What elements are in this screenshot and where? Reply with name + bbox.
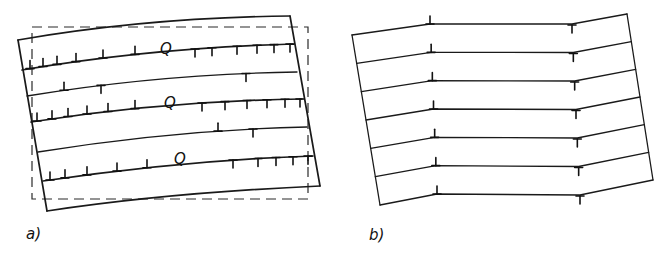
negative-edge-dislocation <box>221 102 229 110</box>
negative-edge-dislocation <box>253 45 261 53</box>
negative-edge-dislocation <box>272 157 280 165</box>
negative-edge-dislocation <box>198 103 206 111</box>
figure-canvas: Q Q Q a) b) <box>0 0 670 259</box>
panel-a-label: a) <box>26 225 41 243</box>
layer-line <box>22 44 293 70</box>
negative-edge-dislocation <box>254 158 262 166</box>
negative-edge-dislocation <box>263 100 271 108</box>
positive-edge-dislocation <box>131 46 139 54</box>
positive-edge-dislocation <box>113 163 121 171</box>
negative-edge-dislocation <box>575 168 583 176</box>
negative-edge-dislocation <box>304 156 312 164</box>
positive-edge-dislocation <box>60 82 68 90</box>
negative-edge-dislocation <box>569 54 577 62</box>
positive-edge-dislocation <box>426 16 434 24</box>
positive-edge-dislocation <box>131 101 139 109</box>
q-label-2: Q <box>164 94 176 112</box>
negative-edge-dislocation <box>208 48 216 56</box>
negative-edge-dislocation <box>249 129 257 137</box>
panel-b: b) <box>352 14 653 244</box>
positive-edge-dislocation <box>431 129 439 137</box>
q-label-3: Q <box>174 150 186 168</box>
negative-edge-dislocation <box>572 111 580 119</box>
negative-edge-dislocation <box>571 82 579 90</box>
positive-edge-dislocation <box>104 104 112 112</box>
negative-edge-dislocation <box>242 73 250 81</box>
negative-edge-dislocation <box>289 157 297 165</box>
negative-edge-dislocation <box>573 139 581 147</box>
negative-edge-dislocation <box>296 99 304 107</box>
lattice-plane <box>371 125 645 149</box>
dislocations-a <box>26 44 312 180</box>
positive-edge-dislocation <box>143 160 151 168</box>
panel-a: Q Q Q a) <box>18 16 320 243</box>
negative-edge-dislocation <box>568 25 576 33</box>
frame-bottom <box>47 186 320 211</box>
negative-edge-dislocation <box>191 49 199 57</box>
layer-line <box>38 127 307 152</box>
lattice-planes <box>352 14 653 205</box>
lattice-plane <box>352 14 627 35</box>
positive-edge-dislocation <box>432 158 440 166</box>
positive-edge-dislocation <box>430 101 438 109</box>
positive-edge-dislocation <box>214 123 222 131</box>
negative-edge-dislocation <box>233 46 241 54</box>
positive-edge-dislocation <box>428 73 436 81</box>
layer-lines <box>22 44 313 181</box>
frame-right <box>290 16 320 186</box>
negative-edge-dislocation <box>286 44 294 52</box>
negative-edge-dislocation <box>229 160 237 168</box>
negative-edge-dislocation <box>576 196 584 204</box>
layer-line <box>27 72 297 96</box>
q-label-1: Q <box>160 40 172 58</box>
lattice-plane <box>380 180 653 205</box>
panel-b-label: b) <box>369 226 384 244</box>
negative-edge-dislocation <box>270 45 278 53</box>
negative-edge-dislocation <box>281 99 289 107</box>
negative-edge-dislocation <box>97 85 105 93</box>
lattice-plane <box>375 152 648 176</box>
lattice-plane <box>366 97 640 120</box>
lattice-plane <box>361 69 635 91</box>
negative-edge-dislocation <box>243 101 251 109</box>
frame-top <box>18 16 290 40</box>
lattice-plane <box>357 42 632 64</box>
positive-edge-dislocation <box>433 186 441 194</box>
positive-edge-dislocation <box>427 44 435 52</box>
